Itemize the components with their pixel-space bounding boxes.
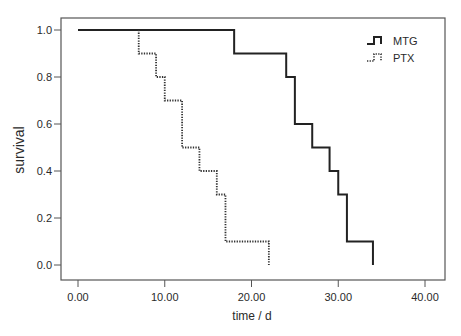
legend-solid-step-icon	[367, 37, 381, 44]
legend-item-ptx: PTX	[367, 52, 415, 64]
legend-label-mtg: MTG	[393, 35, 417, 47]
x-axis: 0.0010.0020.0030.0040.00	[67, 280, 438, 303]
series-group	[78, 30, 373, 265]
y-tick-label: 0.0	[37, 259, 52, 271]
x-axis-label: time / d	[232, 309, 271, 323]
y-tick-label: 0.8	[37, 71, 52, 83]
x-tick-label: 30.00	[324, 291, 352, 303]
y-axis-label: survival	[11, 126, 27, 173]
survival-chart: 0.00.20.40.60.81.0 0.0010.0020.0030.0040…	[0, 0, 461, 336]
y-axis: 0.00.20.40.60.81.0	[37, 24, 61, 271]
x-tick-label: 20.00	[238, 291, 266, 303]
legend-label-ptx: PTX	[393, 52, 415, 64]
series-ptx-line	[139, 30, 269, 265]
x-tick-label: 40.00	[411, 291, 439, 303]
y-tick-label: 1.0	[37, 24, 52, 36]
x-tick-label: 10.00	[151, 291, 179, 303]
legend-item-mtg: MTG	[367, 35, 417, 47]
x-tick-label: 0.00	[67, 291, 88, 303]
legend-dotted-step-icon	[367, 54, 381, 61]
y-tick-label: 0.2	[37, 212, 52, 224]
legend: MTG PTX	[367, 35, 417, 64]
y-tick-label: 0.6	[37, 118, 52, 130]
y-tick-label: 0.4	[37, 165, 52, 177]
